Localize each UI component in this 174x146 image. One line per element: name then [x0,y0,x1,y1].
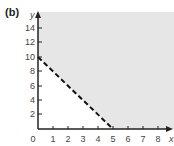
svg-text:6: 6 [30,81,35,91]
x-tick-labels: 0 1 2 3 4 5 6 7 8 [30,134,160,144]
svg-text:8: 8 [155,134,160,144]
svg-text:3: 3 [80,134,85,144]
svg-text:5: 5 [110,134,115,144]
y-tick-labels: 2 4 6 8 10 12 14 [25,23,35,119]
svg-text:2: 2 [30,109,35,119]
x-axis-label: x [168,134,174,144]
svg-text:7: 7 [140,134,145,144]
svg-text:0: 0 [30,134,35,144]
svg-text:4: 4 [95,134,100,144]
y-axis-label: y [29,10,35,20]
svg-text:10: 10 [25,52,35,62]
svg-text:4: 4 [30,95,35,105]
svg-text:6: 6 [125,134,130,144]
svg-text:14: 14 [25,23,35,33]
svg-text:2: 2 [65,134,70,144]
svg-text:12: 12 [25,37,35,47]
inequality-chart: 0 1 2 3 4 5 6 7 8 x 2 4 6 8 10 12 14 y [0,0,174,146]
shaded-region [38,12,174,129]
svg-text:1: 1 [50,134,55,144]
svg-text:8: 8 [30,66,35,76]
